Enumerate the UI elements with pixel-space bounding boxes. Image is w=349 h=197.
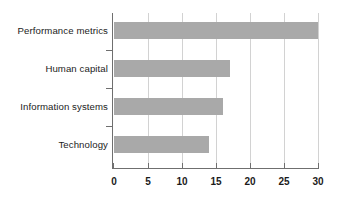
x-axis-tick-15 (216, 163, 217, 169)
y-axis-tick-1 (106, 50, 112, 51)
x-axis-tick-5 (148, 163, 149, 169)
x-axis-tick-30 (318, 163, 319, 169)
x-tick-label-20: 20 (235, 176, 265, 187)
bar-performance-metrics (114, 22, 318, 39)
x-tick-label-0: 0 (99, 176, 129, 187)
y-axis-tick-3 (106, 126, 112, 127)
x-tick-label-15: 15 (201, 176, 231, 187)
x-axis-tick-20 (250, 163, 251, 169)
bar-information-systems (114, 98, 223, 115)
x-tick-label-25: 25 (269, 176, 299, 187)
x-axis-tick-25 (284, 163, 285, 169)
x-tick-label-10: 10 (167, 176, 197, 187)
x-axis-tick-10 (182, 163, 183, 169)
x-axis-tick-0 (113, 163, 114, 169)
x-tick-label-30: 30 (303, 176, 333, 187)
x-tick-label-5: 5 (133, 176, 163, 187)
bar-human-capital (114, 60, 230, 77)
category-label-technology: Technology (0, 139, 108, 150)
y-axis-tick-2 (106, 88, 112, 89)
gridline-30 (318, 13, 319, 168)
category-label-information-systems: Information systems (0, 101, 108, 112)
category-label-human-capital: Human capital (0, 63, 108, 74)
category-label-performance-metrics: Performance metrics (0, 25, 108, 36)
bar-technology (114, 136, 209, 153)
bar-chart: Performance metrics Human capital Inform… (0, 0, 349, 197)
